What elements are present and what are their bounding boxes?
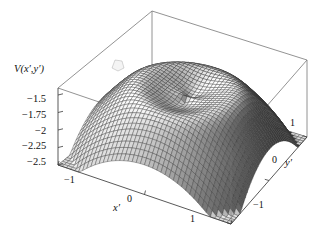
y-label-text: y′ bbox=[285, 157, 292, 168]
z-tick-label: −2.25 bbox=[22, 141, 46, 152]
z-tick-label: −1.5 bbox=[27, 94, 46, 105]
x-tick-label: 0 bbox=[127, 194, 132, 204]
y-axis-label: y′ bbox=[285, 158, 292, 169]
x-tick-label: 1 bbox=[190, 214, 195, 224]
z-axis-label: V(x′,y′) bbox=[14, 64, 44, 75]
y-tick-label: 1 bbox=[290, 118, 295, 128]
y-tick-label: 0 bbox=[272, 155, 277, 165]
z-tick-label: −2 bbox=[35, 126, 46, 137]
z-tick-mark bbox=[58, 111, 63, 112]
z-label-text: V(x′,y′) bbox=[14, 63, 44, 74]
surface-canvas bbox=[0, 0, 318, 247]
x-label-text: x′ bbox=[113, 202, 120, 213]
mesh-highlight-artifact bbox=[112, 60, 124, 71]
z-tick-label: −2.5 bbox=[27, 157, 46, 168]
z-tick-mark bbox=[58, 129, 63, 130]
z-tick-mark bbox=[58, 94, 63, 95]
x-axis-label: x′ bbox=[113, 203, 120, 214]
x-tick-label: −1 bbox=[64, 175, 75, 185]
y-tick-mark bbox=[265, 179, 269, 180]
surface-plot: V(x′,y′) x′ y′ −1.5−1.75−2−2.25−2.5−1011… bbox=[0, 0, 318, 247]
x-tick-mark bbox=[145, 191, 146, 195]
y-tick-label: −1 bbox=[253, 200, 264, 210]
z-tick-label: −1.75 bbox=[22, 110, 46, 121]
box-edge-top-back-right bbox=[152, 11, 307, 60]
z-tick-mark bbox=[58, 146, 63, 147]
surface-mesh bbox=[58, 60, 307, 224]
